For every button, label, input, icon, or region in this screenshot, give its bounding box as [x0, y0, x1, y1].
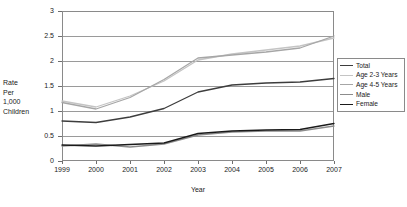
x-axis-tick-label: 1999 — [45, 166, 79, 174]
y-axis-tick-mark — [58, 11, 62, 12]
series-line — [62, 79, 334, 123]
x-axis-tick-label: 2004 — [215, 166, 249, 174]
legend-item: Age 4-5 Years — [339, 80, 402, 90]
legend-swatch — [340, 104, 353, 105]
legend-label: Male — [356, 91, 370, 99]
x-axis-tick-label: 2000 — [79, 166, 113, 174]
x-axis-tick-label: 2002 — [147, 166, 181, 174]
x-axis-tick-mark — [198, 161, 199, 164]
x-axis-tick-label: 2005 — [249, 166, 283, 174]
chart-legend: TotalAge 2-3 YearsAge 4-5 YearsMaleFemal… — [337, 58, 405, 112]
y-axis-tick-mark — [58, 86, 62, 87]
legend-swatch — [340, 94, 353, 95]
x-axis-tick-label: 2001 — [113, 166, 147, 174]
legend-swatch — [340, 75, 353, 76]
legend-item: Male — [339, 90, 402, 100]
y-axis-tick-mark — [58, 111, 62, 112]
x-axis-tick-mark — [300, 161, 301, 164]
y-axis-tick-mark — [58, 61, 62, 62]
x-axis-tick-mark — [130, 161, 131, 164]
y-axis-tick-mark — [58, 161, 62, 162]
legend-label: Total — [356, 62, 370, 70]
x-axis-tick-mark — [96, 161, 97, 164]
x-axis-tick-label: 2006 — [283, 166, 317, 174]
y-axis-tick-mark — [58, 136, 62, 137]
legend-swatch — [340, 65, 353, 66]
legend-label: Age 2-3 Years — [356, 71, 397, 79]
x-axis-title: Year — [62, 186, 334, 193]
legend-item: Female — [339, 99, 402, 109]
x-axis-tick-mark — [164, 161, 165, 164]
x-axis-tick-mark — [62, 161, 63, 164]
legend-label: Age 4-5 Years — [356, 81, 397, 89]
legend-swatch — [340, 84, 353, 85]
x-axis-tick-mark — [232, 161, 233, 164]
x-axis-tick-mark — [334, 161, 335, 164]
legend-item: Age 2-3 Years — [339, 71, 402, 81]
y-axis-tick-mark — [58, 36, 62, 37]
legend-label: Female — [356, 100, 378, 108]
legend-item: Total — [339, 61, 402, 71]
x-axis-tick-label: 2003 — [181, 166, 215, 174]
x-axis-tick-mark — [266, 161, 267, 164]
x-axis-tick-label: 2007 — [317, 166, 351, 174]
line-chart: Rate Per 1,000 Children 00.511.522.53 19… — [0, 0, 407, 207]
